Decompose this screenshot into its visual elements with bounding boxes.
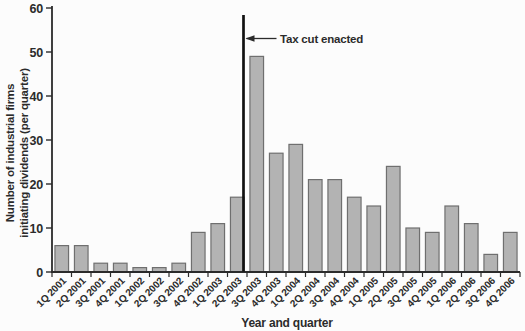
bar-3Q-2004 [328,180,342,272]
bar-3Q-2003 [250,56,264,272]
bar-4Q-2006 [503,232,517,272]
bar-4Q-2005 [425,232,439,272]
bar-2Q-2005 [386,166,400,272]
y-tick-label-20: 20 [29,178,43,192]
bar-1Q-2005 [367,206,381,272]
bar-1Q-2006 [445,206,459,272]
bar-2Q-2001 [74,246,88,272]
dividend-initiations-figure: 01020304050601Q 20012Q 20013Q 20014Q 200… [0,0,525,331]
bar-chart: 01020304050601Q 20012Q 20013Q 20014Q 200… [0,0,525,331]
bar-3Q-2005 [406,228,420,272]
tax-cut-label: Tax cut enacted [280,33,363,45]
bar-3Q-2006 [484,254,498,272]
tax-cut-arrowhead [246,35,255,42]
tax-cut-annotation: Tax cut enacted [246,33,364,45]
y-tick-label-50: 50 [29,46,43,60]
y-tick-label-60: 60 [29,2,43,16]
bar-1Q-2003 [211,224,225,272]
x-axis-title: Year and quarter [241,316,333,330]
y-axis-title-line1: Number of industrial firms [4,84,16,223]
bar-4Q-2003 [269,153,283,272]
y-tick-label-30: 30 [29,134,43,148]
bar-4Q-2004 [347,197,361,272]
y-tick-label-0: 0 [36,266,43,280]
bar-1Q-2001 [55,246,69,272]
bar-4Q-2001 [113,263,127,272]
bar-1Q-2004 [289,144,303,272]
bar-2Q-2004 [308,180,322,272]
y-tick-label-10: 10 [29,222,43,236]
bars-layer [55,56,517,272]
bar-2Q-2003 [230,197,244,272]
bar-3Q-2002 [172,263,186,272]
bar-3Q-2001 [94,263,108,272]
bar-4Q-2002 [191,232,205,272]
bar-2Q-2006 [464,224,478,272]
y-axis-title-line2: initiating dividends (per quarter) [18,68,30,238]
y-tick-label-40: 40 [29,90,43,104]
